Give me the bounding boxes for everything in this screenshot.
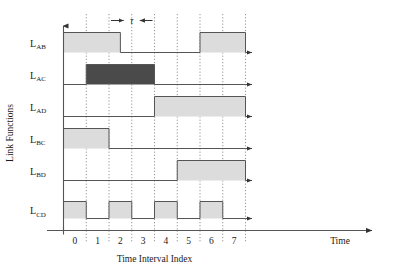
annotations: τ [111,16,153,26]
timing-diagram-svg: LABLACLADLBCLBDLCD01234567TimeTime Inter… [0,0,400,272]
row-label-L_AB: L [30,38,36,49]
signal-L_CD [64,202,253,219]
row-label-sub-L_AC: AC [36,75,46,83]
row-label-L_AD: L [30,102,36,113]
signal-block [109,202,132,219]
signal-block [64,129,110,149]
signal-block [155,97,246,117]
row-label-L_BD: L [30,166,36,177]
x-axis-title: Time Interval Index [117,254,193,264]
x-tick-label-5: 5 [186,236,191,246]
row-label-sub-L_BD: BD [36,171,46,179]
signal-block [86,65,154,85]
x-tick-label-2: 2 [118,236,123,246]
row-label-sub-L_AD: AD [36,107,46,115]
signal-L_AC [64,65,253,85]
signal-block [200,202,223,219]
x-tick-label-6: 6 [209,236,214,246]
x-tick-label-4: 4 [164,236,169,246]
row-label-sub-L_AB: AB [36,43,46,51]
y-axis-title: Link Functions [5,104,15,162]
signal-block [200,33,246,53]
x-axis-end-label: Time [330,236,350,246]
tau-label: τ [130,16,134,26]
row-label-sub-L_BC: BC [36,139,46,147]
x-tick-label-0: 0 [73,236,78,246]
signal-block [155,202,178,219]
signal-L_AB [64,33,253,53]
signal-L_BD [64,161,253,181]
row-label-sub-L_CD: CD [36,211,46,219]
row-label-L_AC: L [30,70,36,81]
signal-block [64,33,121,53]
signal-L_BC [64,129,253,149]
row-label-L_BC: L [30,134,36,145]
x-tick-label-3: 3 [141,236,146,246]
x-tick-label-7: 7 [232,236,237,246]
signal-block [177,161,245,181]
signal-L_AD [64,97,253,117]
x-tick-label-1: 1 [95,236,100,246]
signal-block [64,202,87,219]
row-label-L_CD: L [30,205,36,216]
signal-traces [64,33,253,219]
timing-diagram-figure: LABLACLADLBCLBDLCD01234567TimeTime Inter… [0,0,400,272]
